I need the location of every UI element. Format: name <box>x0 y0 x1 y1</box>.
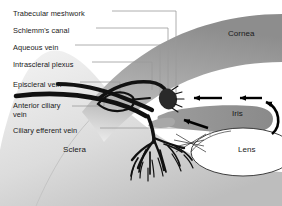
label-cornea: Cornea <box>228 30 255 39</box>
label-ciliary-efferent-vein: Ciliary efferent vein <box>13 127 77 136</box>
label-episcleral-vein: Episcleral vein <box>13 81 61 90</box>
label-trabecular-meshwork: Trabecular meshwork <box>13 10 85 19</box>
label-intrascleral-plexus: Intrascleral plexus <box>13 61 74 70</box>
label-anterior-ciliary-vein: Anterior ciliary vein <box>13 102 61 119</box>
label-lens: Lens <box>238 146 256 155</box>
label-aqueous-vein: Aqueous vein <box>13 44 58 53</box>
label-iris: Iris <box>232 110 243 119</box>
label-schlemms-canal: Schlemm's canal <box>13 27 69 36</box>
eye-anatomy-diagram: Trabecular meshwork Schlemm's canal Aque… <box>0 0 282 206</box>
label-sclera: Sclera <box>63 146 86 155</box>
